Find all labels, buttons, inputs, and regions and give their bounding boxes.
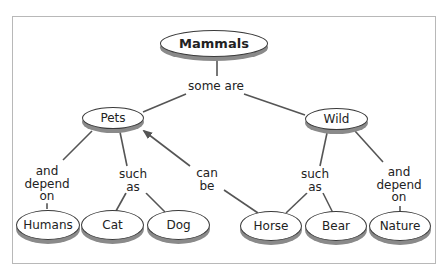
link-label-can-be: can be [194,167,220,192]
link-label-wild-depend-on: and depend on [374,166,423,204]
link-label-line: be [196,179,218,192]
node-pets: Pets [82,107,144,129]
node-nature-label: Nature [369,211,431,241]
link-label-pets-depend-on: and depend on [22,165,71,203]
node-horse-label: Horse [240,211,302,241]
link-label-pets-such-as: such as [117,168,149,193]
link-label-line: on [376,191,421,204]
line-suchas-horse [286,193,307,213]
line-wild-suchas [320,133,327,166]
node-wild-label: Wild [305,108,368,130]
line-wild-depend [355,131,383,162]
link-label-line: can [196,167,218,180]
node-cat: Cat [81,210,144,240]
node-mammals: Mammals [160,30,268,57]
line-suchas-bear [323,193,333,213]
node-bear: Bear [305,211,367,241]
line-horse-canbe [224,190,258,213]
link-label-line: on [24,190,69,203]
node-humans-label: Humans [16,210,80,240]
link-label-some-are: some are [186,80,246,93]
node-dog-label: Dog [147,210,210,240]
line-pets-suchas [120,132,127,166]
line-suchas-cat [116,193,126,211]
node-horse: Horse [240,211,302,241]
link-label-line: such [301,168,329,181]
node-nature: Nature [369,211,431,241]
link-label-line: and [376,166,421,179]
node-mammals-label: Mammals [160,30,268,57]
node-bear-label: Bear [305,211,367,241]
node-cat-label: Cat [81,210,144,240]
link-label-line: as [301,180,329,193]
node-humans: Humans [16,210,80,240]
link-label-wild-such-as: such as [299,168,331,193]
line-canbe-pets-arrow [144,131,190,166]
line-pets-depend [63,131,92,160]
link-label-line: such [119,168,147,181]
link-label-line: and [24,165,69,178]
line-someare-wild [244,94,305,115]
line-someare-pets [143,94,186,112]
node-dog: Dog [147,210,210,240]
node-wild: Wild [305,108,368,130]
node-pets-label: Pets [82,107,144,129]
link-label-line: as [119,180,147,193]
